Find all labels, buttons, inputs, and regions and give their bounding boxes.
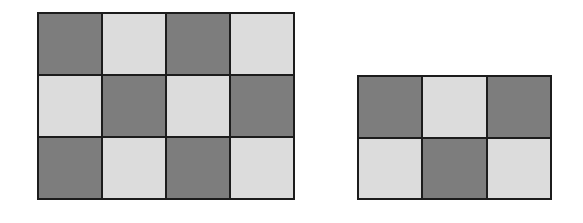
left-grid-cell-r0-c3-light	[231, 14, 293, 74]
left-grid	[37, 12, 295, 200]
left-grid-cell-r1-c1-dark	[103, 76, 165, 136]
left-grid-cell-r0-c1-light	[103, 14, 165, 74]
right-grid-cell-r0-c0-dark	[359, 77, 421, 137]
left-grid-cell-r2-c0-dark	[39, 138, 101, 198]
left-grid-cell-r1-c2-light	[167, 76, 229, 136]
right-grid-cell-r1-c0-light	[359, 139, 421, 199]
right-grid-cell-r1-c1-dark	[423, 139, 485, 199]
left-grid-cell-r2-c3-light	[231, 138, 293, 198]
left-grid-cell-r0-c0-dark	[39, 14, 101, 74]
right-grid-cell-r0-c2-dark	[488, 77, 550, 137]
left-grid-cell-r1-c3-dark	[231, 76, 293, 136]
left-grid-cell-r2-c2-dark	[167, 138, 229, 198]
right-grid-cell-r1-c2-light	[488, 139, 550, 199]
right-grid	[357, 75, 552, 200]
left-grid-cell-r0-c2-dark	[167, 14, 229, 74]
right-grid-cell-r0-c1-light	[423, 77, 485, 137]
left-grid-cell-r2-c1-light	[103, 138, 165, 198]
left-grid-cell-r1-c0-light	[39, 76, 101, 136]
